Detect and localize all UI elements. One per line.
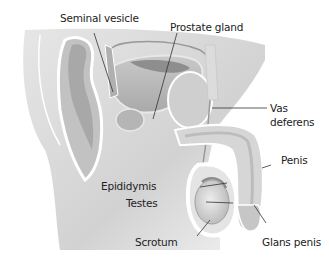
scrotum — [188, 164, 236, 235]
label-vas-deferens-2: deferens — [270, 116, 314, 129]
label-glans-penis: Glans penis — [262, 236, 321, 249]
label-prostate-gland: Prostate gland — [170, 21, 243, 34]
label-seminal-vesicle: Seminal vesicle — [60, 12, 139, 25]
label-scrotum: Scrotum — [135, 236, 178, 249]
label-vas-deferens-1: Vas — [270, 102, 288, 115]
label-epididymis: Epididymis — [101, 180, 156, 193]
pubic-bone — [168, 72, 212, 128]
anatomy-illustration — [0, 0, 329, 263]
anatomy-figure: Seminal vesicle Prostate gland Vas defer… — [0, 0, 329, 263]
label-penis: Penis — [281, 154, 307, 167]
label-testes: Testes — [126, 197, 157, 210]
prostate-gland — [116, 109, 144, 131]
